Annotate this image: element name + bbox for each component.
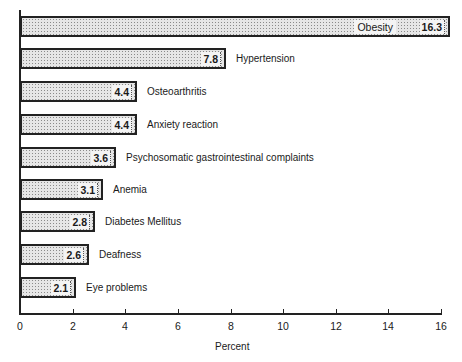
x-tick-mark — [231, 309, 232, 314]
bar-value-label: 2.8 — [70, 215, 90, 229]
bar-category-label: Psychosomatic gastrointestinal complaint… — [126, 147, 314, 168]
bar: 2.8 — [20, 211, 95, 232]
bar-category-label: Eye problems — [86, 277, 147, 298]
bar: 7.8 — [20, 48, 226, 69]
bar-value-label: 3.1 — [78, 183, 98, 197]
bar-category-label: Obesity — [354, 20, 396, 34]
x-tick-label: 14 — [376, 320, 400, 332]
x-tick-mark — [125, 309, 126, 314]
bar: 3.6 — [20, 147, 116, 168]
x-tick-mark — [178, 309, 179, 314]
x-tick-mark — [20, 309, 21, 314]
bar-value-label: 16.3 — [420, 20, 445, 34]
bar: 3.1 — [20, 179, 103, 200]
bar-category-label: Deafness — [99, 244, 141, 265]
x-axis-title: Percent — [215, 341, 249, 352]
bar-category-label: Osteoarthritis — [147, 81, 206, 102]
x-tick-mark — [336, 309, 337, 314]
x-tick-label: 10 — [271, 320, 295, 332]
x-tick-mark — [73, 309, 74, 314]
bar-value-label: 3.6 — [91, 151, 111, 165]
bar-value-label: 2.6 — [64, 248, 84, 262]
x-tick-label: 2 — [61, 320, 85, 332]
x-tick-label: 6 — [166, 320, 190, 332]
bar-chart: 16.3ObesityHypertension7.8Osteoarthritis… — [0, 0, 462, 362]
x-tick-mark — [441, 309, 442, 314]
bar-category-label: Anemia — [113, 179, 147, 200]
bar-value-label: 7.8 — [201, 52, 221, 66]
bar-category-label: Hypertension — [236, 48, 295, 69]
bar: 2.6 — [20, 244, 89, 265]
bar-value-label: 4.4 — [112, 118, 132, 132]
bar: 4.4 — [20, 114, 137, 135]
bar-category-label: Anxiety reaction — [147, 114, 218, 135]
x-tick-mark — [388, 309, 389, 314]
x-tick-label: 16 — [429, 320, 453, 332]
bar-value-label: 4.4 — [112, 85, 132, 99]
x-tick-label: 12 — [324, 320, 348, 332]
x-tick-label: 4 — [113, 320, 137, 332]
x-tick-mark — [283, 309, 284, 314]
x-tick-label: 8 — [219, 320, 243, 332]
bar: 16.3Obesity — [20, 16, 450, 37]
x-tick-label: 0 — [8, 320, 32, 332]
bar-category-label: Diabetes Mellitus — [105, 211, 181, 232]
bar: 4.4 — [20, 81, 137, 102]
bar-value-label: 2.1 — [51, 281, 71, 295]
bar: 2.1 — [20, 277, 76, 298]
